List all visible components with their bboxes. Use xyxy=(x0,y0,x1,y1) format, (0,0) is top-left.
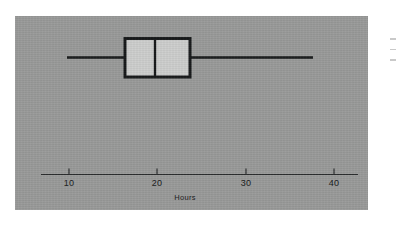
margin-mark xyxy=(390,59,396,61)
boxplot-svg: 10 20 30 40 Hours xyxy=(15,16,368,210)
x-tick-10: 10 xyxy=(64,169,74,189)
x-axis-title: Hours xyxy=(174,193,196,202)
box-iqr xyxy=(125,39,190,78)
x-axis: 10 20 30 40 Hours xyxy=(41,169,358,203)
x-tick-label: 20 xyxy=(152,178,162,188)
x-tick-label: 30 xyxy=(241,178,251,188)
x-tick-20: 20 xyxy=(152,169,162,189)
boxplot-figure-panel: 10 20 30 40 Hours xyxy=(15,16,368,210)
page-margin-marks xyxy=(390,38,399,70)
x-tick-label: 10 xyxy=(64,178,74,188)
x-tick-label: 40 xyxy=(329,178,339,188)
margin-mark xyxy=(390,38,396,40)
margin-mark xyxy=(390,49,396,51)
x-tick-40: 40 xyxy=(329,169,339,189)
x-tick-30: 30 xyxy=(241,169,251,189)
